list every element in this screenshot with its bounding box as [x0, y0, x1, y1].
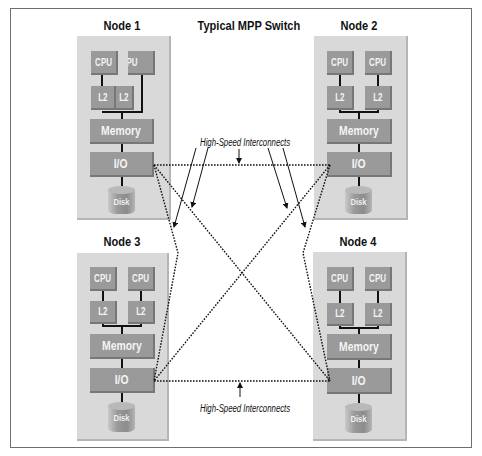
node-4-disk-label: Disk [350, 414, 366, 424]
node-2-title: Node 2 [334, 18, 385, 33]
node-2-memory: Memory [327, 119, 392, 144]
interconnect-label-top: High-Speed Interconnects [200, 137, 290, 148]
node-4-disk-icon: Disk [345, 403, 372, 433]
node-1-cpu-2: PU [128, 51, 155, 75]
node-4-memory-label: Memory [339, 339, 379, 354]
node-1-memory: Memory [90, 119, 154, 144]
node-4-io-label: I/O [352, 373, 366, 388]
node-4-l2-2-label: L2 [373, 308, 382, 319]
node-3-title: Node 3 [97, 234, 148, 249]
node-2-memory-label: Memory [339, 123, 379, 138]
node-3-cpu-1-label: CPU [94, 273, 111, 284]
node-2-l2-2-label: L2 [373, 92, 382, 103]
node-1-l2-2-label: L2 [119, 92, 128, 103]
node-3-io: I/O [90, 368, 155, 393]
node-3-memory-label: Memory [102, 338, 142, 353]
node-3-l2-2: L2 [128, 301, 155, 324]
node-1-cpu-1: CPU [91, 51, 118, 75]
node-3-disk-icon: Disk [108, 402, 135, 432]
node-2-io: I/O [327, 152, 392, 177]
node-1-l2-1-label: L2 [98, 92, 107, 103]
node-2-disk-icon: Disk [345, 186, 372, 214]
node-1-l2-1: L2 [91, 86, 116, 110]
node-3-cpu-2-label: CPU [132, 273, 149, 284]
node-3-l2-1: L2 [90, 301, 117, 324]
node-3-l2-1-label: L2 [98, 306, 107, 317]
node-4-io: I/O [327, 368, 392, 394]
node-1-l2-2: L2 [116, 86, 134, 110]
node-2-l2-1-label: L2 [335, 92, 344, 103]
node-1-cpu2-link [141, 75, 143, 112]
node-2-cpu-2: CPU [365, 51, 392, 75]
node-4-cpu-1-label: CPU [331, 273, 348, 284]
node-2-l2-1: L2 [327, 86, 354, 110]
node-1-io-label: I/O [114, 156, 128, 171]
node-2-l2-2: L2 [365, 86, 392, 110]
node-1-disk-label: Disk [113, 197, 129, 207]
node-1-io: I/O [90, 152, 154, 177]
node-4-l2-1-label: L2 [335, 308, 344, 319]
node-1-title: Node 1 [97, 18, 148, 33]
node-2-cpu-1: CPU [327, 51, 354, 75]
node-3-bus-mem-link [121, 325, 123, 334]
node-3-io-label: I/O [115, 372, 129, 387]
node-3-l2-2-label: L2 [136, 306, 145, 317]
node-1-disk-icon: Disk [108, 186, 135, 214]
node-3-disk-label: Disk [113, 413, 129, 423]
node-4-cpu-2: CPU [365, 267, 392, 291]
node-4-l2-2: L2 [365, 303, 392, 326]
node-2-cpu-2-label: CPU [369, 57, 386, 68]
node-1-cpu-2-label: PU [128, 57, 138, 68]
node-3-cpu-1: CPU [90, 267, 117, 291]
node-2-disk-label: Disk [350, 197, 366, 207]
node-4-cpu-2-label: CPU [369, 273, 386, 284]
node-4-l2-1: L2 [327, 303, 354, 326]
node-1-cpu-1-label: CPU [95, 57, 112, 68]
node-2-io-label: I/O [352, 156, 366, 171]
node-2-cpu-1-label: CPU [331, 57, 348, 68]
node-3-memory: Memory [90, 334, 155, 359]
interconnect-label-bottom: High-Speed Interconnects [200, 403, 290, 414]
diagram-title: Typical MPP Switch [198, 18, 283, 33]
node-4-title: Node 4 [333, 234, 384, 249]
node-4-cpu-1: CPU [327, 267, 354, 291]
node-3-cpu-2: CPU [128, 267, 155, 291]
node-1-memory-label: Memory [101, 123, 141, 138]
node-4-memory: Memory [327, 334, 392, 360]
